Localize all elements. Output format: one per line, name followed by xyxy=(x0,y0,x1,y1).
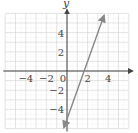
coordinate-plane: xy−4−202442−2−4 xyxy=(0,0,138,133)
y-axis-label: y xyxy=(62,0,70,10)
x-tick-label: 0 xyxy=(60,73,66,84)
y-tick-label: 2 xyxy=(58,47,64,58)
x-tick-label: −2 xyxy=(39,73,54,84)
y-tick-label: −4 xyxy=(49,104,64,115)
x-tick-label: 4 xyxy=(105,73,111,84)
x-tick-label: −4 xyxy=(18,73,33,84)
y-tick-label: −2 xyxy=(49,85,64,96)
x-tick-label: 2 xyxy=(84,73,90,84)
y-tick-label: 4 xyxy=(58,28,64,39)
